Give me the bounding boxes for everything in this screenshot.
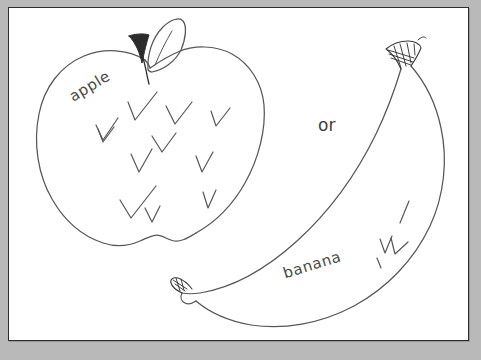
- drawing-canvas: [8, 7, 469, 341]
- or-connector-label: or: [318, 115, 335, 135]
- image-frame: apple banana or: [0, 0, 481, 360]
